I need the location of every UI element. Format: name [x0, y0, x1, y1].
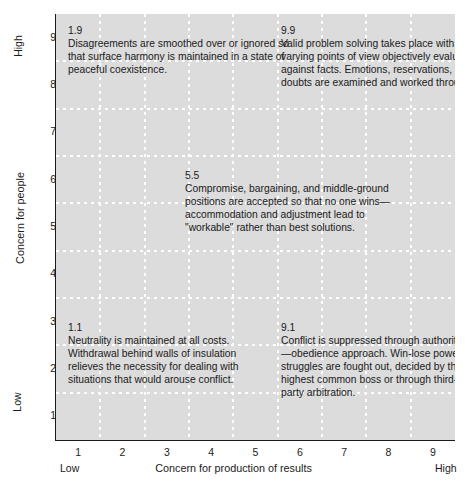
cell-annotation-9-1: 9.1 Conflict is suppressed through autho…	[281, 321, 455, 400]
y-tick-label: 3	[42, 315, 56, 327]
cell-annotation-9-9: 9.9 Valid problem solving takes place wi…	[281, 24, 455, 89]
x-tick-label: 5	[246, 446, 266, 458]
cell-text-5-5: Compromise, bargaining, and middle-groun…	[185, 182, 395, 234]
x-tick-label: 7	[334, 446, 354, 458]
cell-text-9-9: Valid problem solving takes place with v…	[281, 37, 455, 89]
y-tick-label: 1	[42, 409, 56, 421]
cell-code-9-1: 9.1	[281, 321, 455, 334]
cell-annotation-5-5: 5.5 Compromise, bargaining, and middle-g…	[185, 169, 395, 234]
gridline-horizontal	[56, 155, 455, 157]
y-tick-label: 2	[42, 362, 56, 374]
cell-code-5-5: 5.5	[185, 169, 395, 182]
cell-text-1-1: Neutrality is maintained at all costs. W…	[68, 334, 253, 386]
cell-code-1-9: 1.9	[68, 24, 300, 37]
x-tick-label: 6	[290, 446, 310, 458]
cell-annotation-1-1: 1.1 Neutrality is maintained at all cost…	[68, 321, 253, 386]
plot-area: 1.9 Disagreements are smoothed over or i…	[56, 14, 455, 440]
cell-code-1-1: 1.1	[68, 321, 253, 334]
cell-annotation-1-9: 1.9 Disagreements are smoothed over or i…	[68, 24, 300, 76]
y-tick-label: 6	[42, 173, 56, 185]
x-tick-label: 1	[68, 446, 88, 458]
y-tick-label: 5	[42, 220, 56, 232]
cell-text-1-9: Disagreements are smoothed over or ignor…	[68, 37, 300, 76]
managerial-grid-figure: 1.9 Disagreements are smoothed over or i…	[0, 0, 467, 485]
x-tick-label: 2	[113, 446, 133, 458]
y-axis-title: Concern for people	[14, 118, 26, 318]
x-tick-label: 4	[201, 446, 221, 458]
cell-code-9-9: 9.9	[281, 24, 455, 37]
gridline-horizontal	[56, 297, 455, 299]
x-tick-label: 9	[423, 446, 443, 458]
gridline-horizontal	[56, 250, 455, 252]
x-axis-line	[55, 440, 455, 441]
y-axis-low-label: Low	[11, 382, 23, 422]
cell-text-9-1: Conflict is suppressed through authority…	[281, 334, 455, 399]
y-tick-label: 4	[42, 267, 56, 279]
x-axis-title: Concern for production of results	[0, 462, 467, 474]
gridline-horizontal	[56, 108, 455, 110]
x-tick-label: 8	[379, 446, 399, 458]
x-tick-label: 3	[157, 446, 177, 458]
y-axis-high-label: High	[12, 26, 24, 66]
y-tick-label: 7	[42, 125, 56, 137]
y-tick-label: 9	[42, 31, 56, 43]
y-tick-label: 8	[42, 78, 56, 90]
